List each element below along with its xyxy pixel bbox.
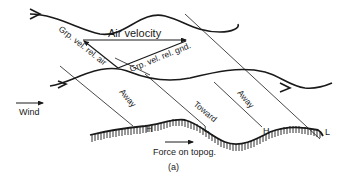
low-label-1: L <box>204 124 209 134</box>
away-label-2: Away <box>235 88 256 111</box>
low-label-2: L <box>325 127 330 137</box>
high-label-2: H <box>263 126 270 136</box>
force-on-topog-label: Force on topog. <box>153 147 216 157</box>
grp-vel-rel-air-label: Grp. vel. rel. air <box>57 24 109 68</box>
grp-vel-rel-gnd-label: Grp. vel. rel. gnd. <box>128 40 192 74</box>
wave-diagram: Air velocity Grp. vel. rel. air Grp. vel… <box>0 0 347 192</box>
high-label-1: H <box>146 124 153 134</box>
lower-streamline <box>50 69 332 89</box>
diagram-figure: Air velocity Grp. vel. rel. air Grp. vel… <box>0 0 347 192</box>
air-velocity-label: Air velocity <box>108 27 162 39</box>
away-label-1: Away <box>117 87 138 110</box>
toward-label: Toward <box>192 99 220 124</box>
panel-label: (a) <box>168 162 179 172</box>
wind-label: Wind <box>19 107 40 117</box>
lower-streamline-end-arrow-icon <box>280 83 290 92</box>
phase-line-4 <box>185 14 320 139</box>
